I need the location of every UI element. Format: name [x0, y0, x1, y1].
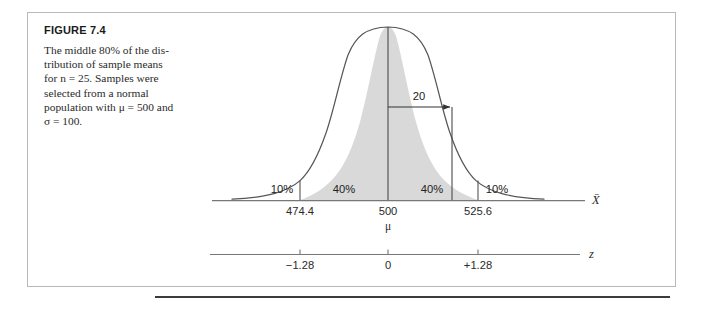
caption-line-4: selected from a normal	[44, 86, 196, 100]
figure-caption: FIGURE 7.4 The middle 80% of the dis- tr…	[44, 24, 196, 128]
caption-line-6: σ = 100.	[44, 114, 196, 128]
figure-title: FIGURE 7.4	[44, 24, 196, 36]
figure-caption-text: The middle 80% of the dis- tribution of …	[44, 43, 196, 128]
caption-line-1: The middle 80% of the dis-	[44, 43, 196, 57]
bottom-divider-rule	[155, 296, 670, 298]
caption-line-3: for n = 25. Samples were	[44, 71, 196, 85]
caption-line-5: population with μ = 500 and	[44, 100, 196, 114]
figure-page: FIGURE 7.4 The middle 80% of the dis- tr…	[0, 0, 704, 313]
caption-line-2: tribution of sample means	[44, 57, 196, 71]
